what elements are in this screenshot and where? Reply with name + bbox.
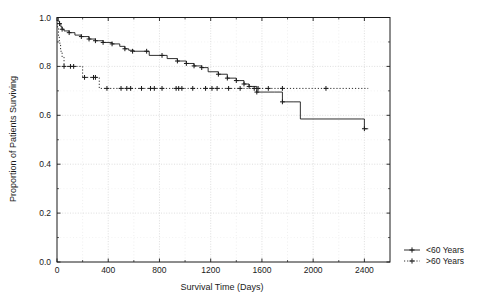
legend-label: <60 Years <box>426 245 464 255</box>
legend-label: >60 Years <box>426 256 464 266</box>
x-axis-label: Survival Time (Days) <box>180 282 263 292</box>
figure-background <box>0 0 480 299</box>
y-tick-label: 1.0 <box>39 13 51 23</box>
y-axis-label: Proportion of Patients Surviving <box>8 76 18 202</box>
y-tick-label: 0.2 <box>39 208 51 218</box>
x-tick-label: 400 <box>101 265 115 275</box>
x-tick-label: 1200 <box>201 265 220 275</box>
kaplan-meier-chart: 040080012001600200024000.00.20.40.60.81.… <box>0 0 480 299</box>
survival-chart-figure: 040080012001600200024000.00.20.40.60.81.… <box>0 0 480 299</box>
y-tick-label: 0.6 <box>39 110 51 120</box>
y-tick-label: 0.8 <box>39 61 51 71</box>
x-tick-label: 2000 <box>304 265 323 275</box>
x-tick-label: 1600 <box>252 265 271 275</box>
y-tick-label: 0.4 <box>39 159 51 169</box>
x-tick-label: 800 <box>152 265 166 275</box>
y-tick-label: 0.0 <box>39 257 51 267</box>
x-tick-label: 0 <box>55 265 60 275</box>
x-tick-label: 2400 <box>355 265 374 275</box>
